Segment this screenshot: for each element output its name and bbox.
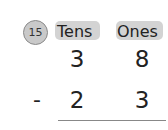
minuend-ones-digit: 8 [132,47,152,71]
problem-number-badge: 15 [23,20,48,45]
subtrahend-tens-digit: 2 [67,88,87,112]
subtrahend-ones-digit: 3 [132,88,152,112]
minus-sign: - [33,88,41,112]
minuend-tens-digit: 3 [67,47,87,71]
tens-column-header: Tens [55,21,100,40]
ones-column-header: Ones [116,21,163,40]
answer-line [58,120,166,121]
